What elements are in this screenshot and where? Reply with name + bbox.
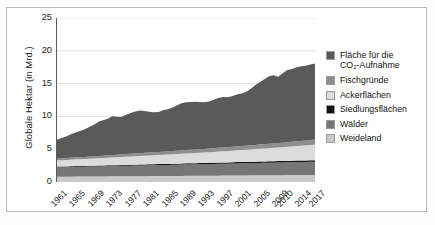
legend-swatch-icon [326,76,335,85]
legend-item-weideland[interactable]: Weideland [326,133,432,143]
legend-item-flaeche-co2-aufnahme[interactable]: Fläche für die CO₂-Aufnahme [326,50,432,71]
legend-item-label: Siedlungsflächen [340,104,407,114]
legend-item-label: Fläche für die CO₂-Aufnahme [340,50,400,71]
legend-item-fischgruende[interactable]: Fischgründe [326,75,432,85]
legend-item-siedlungsflaechen[interactable]: Siedlungsflächen [326,104,432,114]
area-series-group [57,63,315,182]
plot-wrapper: Globale Hektar (in Mrd.) 0510152025 1961… [0,0,435,225]
y-axis-tick-label: 0 [30,176,52,186]
y-axis-tick-label: 25 [30,12,52,22]
y-axis-tick-label: 10 [30,110,52,120]
caption-strip [6,216,427,225]
legend-swatch-icon [326,134,335,143]
chart-legend: Fläche für die CO₂-AufnahmeFischgründeAc… [326,50,432,148]
legend-item-label: Fischgründe [340,75,388,85]
legend-swatch-icon [326,51,335,60]
figure-container: Globale Hektar (in Mrd.) 0510152025 1961… [0,0,435,225]
plot-area [56,18,314,182]
legend-swatch-icon [326,120,335,129]
legend-item-label: Weideland [340,133,381,143]
y-axis-tick-label: 5 [30,143,52,153]
y-axis-tick-label: 20 [30,45,52,55]
legend-item-ackerflaechen[interactable]: Ackerflächen [326,90,432,100]
y-axis-tick-label: 15 [30,78,52,88]
legend-swatch-icon [326,91,335,100]
stacked-area-svg [57,18,315,182]
legend-item-label: Wälder [340,119,368,129]
legend-swatch-icon [326,105,335,114]
legend-item-waelder[interactable]: Wälder [326,119,432,129]
legend-item-label: Ackerflächen [340,90,391,100]
